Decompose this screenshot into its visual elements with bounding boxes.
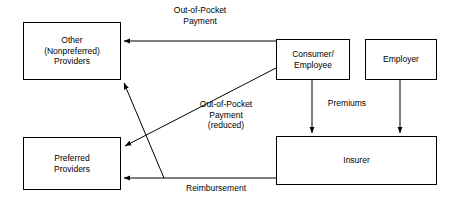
node-preferred-providers[interactable]: Preferred Providers xyxy=(23,137,121,190)
edge-reimbursement-other xyxy=(124,83,164,178)
node-other-nonpreferred-providers[interactable]: Other (Nonpreferred) Providers xyxy=(23,22,121,80)
node-employer-label: Employer xyxy=(383,54,419,65)
edge-label-out-of-pocket-payment: Out-of-Pocket Payment xyxy=(150,5,250,26)
node-preferred-providers-label: Preferred Providers xyxy=(54,153,90,174)
edge-label-premiums: Premiums xyxy=(315,98,379,109)
node-insurer[interactable]: Insurer xyxy=(276,136,437,185)
node-consumer-employee[interactable]: Consumer/ Employee xyxy=(276,39,350,80)
node-other-nonpreferred-providers-label: Other (Nonpreferred) Providers xyxy=(44,35,100,67)
edge-label-out-of-pocket-payment-reduced: Out-of-Pocket Payment (reduced) xyxy=(180,99,272,131)
node-insurer-label: Insurer xyxy=(343,155,369,166)
flow-diagram: Other (Nonpreferred) Providers Consumer/… xyxy=(0,0,458,203)
node-consumer-employee-label: Consumer/ Employee xyxy=(292,49,334,70)
edge-label-reimbursement: Reimbursement xyxy=(170,183,262,194)
node-employer[interactable]: Employer xyxy=(365,39,437,80)
